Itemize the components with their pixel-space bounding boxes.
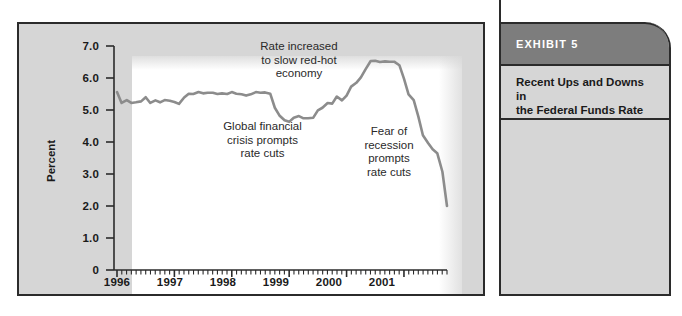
y-tick-label: 3.0	[63, 168, 99, 180]
y-tick-label: 4.0	[63, 136, 99, 148]
x-tick-label: 2001	[359, 276, 405, 288]
y-tick-label: 2.0	[63, 200, 99, 212]
exhibit-body-panel	[501, 120, 669, 292]
y-axis-major-ticks	[106, 46, 114, 270]
y-tick-label: 0	[63, 264, 99, 276]
annotation-rate-increased: Rate increased to slow red-hot economy	[244, 40, 354, 81]
x-tick-label: 1997	[147, 276, 193, 288]
exhibit-caption: Recent Ups and Downs in the Federal Fund…	[501, 66, 669, 120]
exhibit-box: EXHIBIT 5 Recent Ups and Downs in the Fe…	[499, 22, 671, 296]
exhibit-number-label: EXHIBIT 5	[501, 38, 578, 50]
x-tick-label: 2000	[306, 276, 352, 288]
annotation-fear-of-recession: Fear of recession prompts rate cuts	[350, 125, 428, 179]
y-tick-label: 1.0	[63, 232, 99, 244]
screenshot-root: 7.0 6.0 5.0 4.0 3.0 2.0 1.0 0 Percent 19…	[0, 0, 682, 316]
annotation-global-financial-crisis: Global financial crisis prompts rate cut…	[205, 120, 320, 161]
y-tick-label: 7.0	[63, 40, 99, 52]
y-tick-label: 5.0	[63, 104, 99, 116]
y-tick-label: 6.0	[63, 72, 99, 84]
x-tick-label: 1998	[200, 276, 246, 288]
x-tick-label: 1999	[253, 276, 299, 288]
y-axis-title: Percent	[45, 140, 57, 182]
exhibit-connector-line	[499, 0, 501, 22]
exhibit-header: EXHIBIT 5	[501, 22, 669, 66]
x-tick-label: 1996	[94, 276, 140, 288]
chart-panel: 7.0 6.0 5.0 4.0 3.0 2.0 1.0 0 Percent 19…	[17, 22, 485, 296]
